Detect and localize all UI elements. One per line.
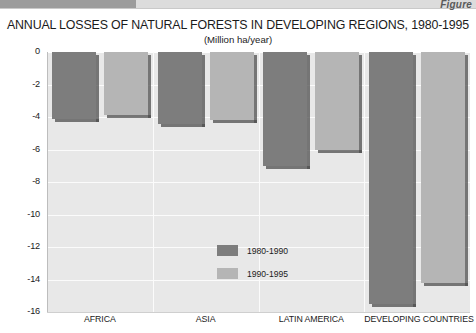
axis-bottom-rule	[47, 312, 470, 313]
bar-shadow-right	[465, 55, 468, 286]
bar-shadow-right	[148, 55, 151, 118]
bar-body	[104, 52, 148, 115]
bar-shadow-bottom	[424, 283, 468, 286]
legend-item: 1980-1990	[217, 242, 288, 259]
legend-label-1980-1990: 1980-1990	[247, 246, 288, 256]
bar-shadow-bottom	[266, 166, 310, 169]
bar-developing-countries-1980-1990	[369, 52, 413, 304]
banner-dark-strip	[0, 0, 136, 8]
bar-body	[52, 52, 96, 119]
bar-shadow-right	[413, 55, 416, 307]
banner-light-strip	[136, 0, 476, 8]
y-axis-tick-label: -8	[0, 176, 40, 186]
legend-swatch-1990-1995	[217, 268, 238, 279]
y-axis-tick-label: -14	[0, 274, 40, 284]
bar-shadow-bottom	[372, 304, 416, 307]
bar-shadow-right	[359, 55, 362, 153]
y-axis-tick-label: 0	[0, 46, 40, 56]
y-axis-tick-label: -10	[0, 209, 40, 219]
chart-title: ANNUAL LOSSES OF NATURAL FORESTS IN DEVE…	[0, 18, 476, 32]
x-axis-label-africa: AFRICA	[47, 314, 153, 324]
x-axis-label-asia: ASIA	[153, 314, 259, 324]
bar-latin-america-1990-1995	[315, 52, 359, 150]
banner-rule	[0, 8, 476, 9]
bar-developing-countries-1990-1995	[421, 52, 465, 283]
legend-swatch-1980-1990	[217, 245, 238, 256]
bar-body	[210, 52, 254, 120]
bar-shadow-bottom	[161, 124, 205, 127]
y-axis-tick-label: -4	[0, 111, 40, 121]
chart-page: Figure ANNUAL LOSSES OF NATURAL FORESTS …	[0, 0, 476, 333]
bar-body	[369, 52, 413, 304]
bar-body	[263, 52, 307, 166]
bar-latin-america-1980-1990	[263, 52, 307, 166]
bar-shadow-right	[202, 55, 205, 127]
x-axis-labels: AFRICAASIALATIN AMERICADEVELOPING COUNTR…	[47, 314, 470, 332]
bar-body	[421, 52, 465, 283]
legend-item: 1990-1995	[217, 265, 288, 282]
plot-area: 1980-1990 1990-1995	[47, 52, 470, 312]
bar-body	[158, 52, 202, 124]
bar-asia-1980-1990	[158, 52, 202, 124]
y-axis-tick-label: -16	[0, 306, 40, 316]
bar-asia-1990-1995	[210, 52, 254, 120]
bar-shadow-right	[254, 55, 257, 123]
x-axis-label-latin-america: LATIN AMERICA	[259, 314, 365, 324]
bar-shadow-right	[96, 55, 99, 122]
bar-shadow-right	[307, 55, 310, 169]
figure-label: Figure	[440, 0, 472, 10]
bar-africa-1980-1990	[52, 52, 96, 119]
top-banner	[0, 0, 476, 10]
bar-shadow-bottom	[55, 119, 99, 122]
y-axis-tick-label: -2	[0, 79, 40, 89]
bar-shadow-bottom	[107, 115, 151, 118]
bar-body	[315, 52, 359, 150]
y-axis-tick-label: -6	[0, 144, 40, 154]
y-axis-labels: 0-2-4-6-8-10-12-14-16	[0, 52, 44, 312]
y-axis-tick-label: -12	[0, 241, 40, 251]
chart-subtitle: (Million ha/year)	[0, 34, 476, 45]
bar-shadow-bottom	[318, 150, 362, 153]
legend-label-1990-1995: 1990-1995	[247, 269, 288, 279]
chart-legend: 1980-1990 1990-1995	[217, 242, 288, 288]
bar-shadow-bottom	[213, 120, 257, 123]
bar-africa-1990-1995	[104, 52, 148, 115]
x-axis-label-developing-countries: DEVELOPING COUNTRIES	[364, 314, 470, 324]
